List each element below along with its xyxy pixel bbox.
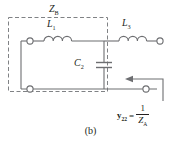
label-inductor-l1: L1 <box>47 19 56 31</box>
label-capacitor-c2: C2 <box>74 58 84 70</box>
circuit-figure: ZB L1 L3 C2 y22 = 1 ZA (b) <box>0 0 181 147</box>
label-zb: ZB <box>49 4 59 16</box>
terminal-port1-top <box>27 38 33 44</box>
formula-equals: = <box>129 111 134 121</box>
dashed-enclosure-zb <box>9 18 108 92</box>
inductor-l3-coil <box>119 36 147 41</box>
formula-lhs: y22 <box>117 110 127 122</box>
formula-numerator: 1 <box>138 104 147 114</box>
arrow-left-icon <box>125 76 133 82</box>
terminal-port1-bottom <box>27 86 33 92</box>
formula-fraction: 1 ZA <box>136 104 149 127</box>
terminal-port2-bottom <box>143 86 149 92</box>
label-inductor-l3: L3 <box>122 18 131 30</box>
figure-caption: (b) <box>0 126 181 136</box>
formula-y22: y22 = 1 ZA <box>117 104 149 127</box>
terminal-port2-top <box>157 38 163 44</box>
inductor-l1-coil <box>44 36 72 41</box>
